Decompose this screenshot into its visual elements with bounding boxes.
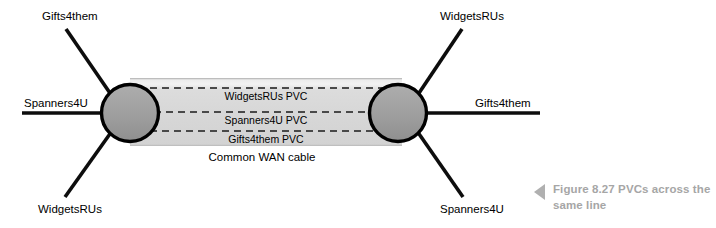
pvc-label-widgetsrus: WidgetsRUs PVC: [225, 90, 308, 102]
endpoint-label-right-top: WidgetsRUs: [440, 10, 504, 22]
link-left-bottom: [65, 131, 112, 197]
endpoint-label-left-middle: Spanners4U: [24, 97, 88, 109]
endpoint-label-right-middle: Gifts4them: [475, 97, 531, 109]
endpoint-label-left-bottom: WidgetsRUs: [38, 203, 102, 215]
figure-caption: Figure 8.27 PVCs across the same line: [534, 182, 712, 214]
endpoint-label-right-bottom: Spanners4U: [440, 203, 504, 215]
link-right-top: [417, 29, 462, 96]
left-router-node[interactable]: [102, 85, 159, 142]
figure-root: WidgetsRUs PVC Spanners4U PVC Gifts4them…: [0, 0, 716, 228]
figure-caption-text: Figure 8.27 PVCs across the same line: [553, 182, 712, 214]
link-right-bottom: [417, 131, 463, 197]
link-left-top: [66, 29, 112, 96]
pvc-label-gifts4them: Gifts4them PVC: [228, 133, 304, 145]
endpoint-label-left-top: Gifts4them: [42, 10, 98, 22]
right-router-node[interactable]: [370, 85, 427, 142]
pvc-label-spanners4u: Spanners4U PVC: [225, 114, 308, 126]
triangle-left-icon: [534, 184, 545, 200]
common-wan-cable-label: Common WAN cable: [209, 151, 316, 163]
